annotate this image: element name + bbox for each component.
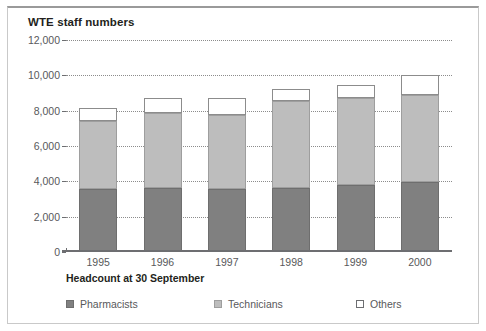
bar-segment-technicians-1997[interactable]	[208, 115, 246, 189]
y-axis-tick-mark	[62, 75, 66, 76]
y-axis-tick-label: 10,000	[0, 70, 60, 80]
y-axis-tick-mark	[62, 40, 66, 41]
x-axis-title: Headcount at 30 September	[66, 272, 204, 284]
legend-item-technicians[interactable]: Technicians	[214, 298, 283, 310]
chart-title: WTE staff numbers	[28, 16, 135, 28]
y-axis-tick-label: 2,000	[0, 212, 60, 222]
bar-segment-technicians-1998[interactable]	[272, 101, 310, 188]
bar-segment-others-2000[interactable]	[401, 75, 439, 94]
bar-segment-technicians-1995[interactable]	[79, 121, 117, 189]
gridline	[66, 40, 452, 41]
bar-segment-pharmacists-1995[interactable]	[79, 189, 117, 252]
swatch-pharmacists-icon	[66, 300, 74, 308]
bar-segment-others-1999[interactable]	[337, 85, 375, 98]
swatch-technicians-icon	[214, 300, 222, 308]
bar-segment-pharmacists-1997[interactable]	[208, 189, 246, 252]
y-axis-tick-label: 0	[0, 247, 60, 257]
y-axis-tick-mark	[62, 217, 66, 218]
y-axis-tick-label: 6,000	[0, 141, 60, 151]
y-axis-tick-mark	[62, 146, 66, 147]
y-axis-tick-label: 12,000	[0, 35, 60, 45]
gridline	[66, 111, 452, 112]
bar-1997[interactable]	[208, 98, 246, 252]
x-axis-tick-label-1999: 1999	[323, 256, 387, 268]
bar-segment-pharmacists-1999[interactable]	[337, 185, 375, 252]
legend-item-others[interactable]: Others	[356, 298, 402, 310]
x-axis-tick-label-1997: 1997	[195, 256, 259, 268]
bar-segment-pharmacists-1996[interactable]	[144, 188, 182, 252]
gridline	[66, 217, 452, 218]
bar-segment-technicians-1996[interactable]	[144, 113, 182, 188]
bar-segment-others-1998[interactable]	[272, 89, 310, 100]
bar-segment-others-1996[interactable]	[144, 98, 182, 113]
swatch-others-icon	[356, 300, 364, 308]
x-axis-tick-label-1996: 1996	[130, 256, 194, 268]
bar-1996[interactable]	[144, 98, 182, 252]
legend-label: Pharmacists	[80, 298, 138, 310]
y-axis-tick-label: 4,000	[0, 176, 60, 186]
y-axis-tick-mark	[62, 111, 66, 112]
x-axis-tick-labels: 199519961997199819992000	[66, 256, 452, 272]
x-axis-tick-label-1995: 1995	[66, 256, 130, 268]
y-axis-labels: 02,0004,0006,0008,00010,00012,000	[0, 40, 60, 252]
bar-segment-others-1995[interactable]	[79, 108, 117, 121]
bar-segment-pharmacists-1998[interactable]	[272, 188, 310, 252]
x-axis-tick-label-1998: 1998	[259, 256, 323, 268]
legend-label: Others	[370, 298, 402, 310]
bar-segment-pharmacists-2000[interactable]	[401, 182, 439, 252]
chart-legend: PharmacistsTechniciansOthers	[66, 298, 456, 312]
gridline	[66, 146, 452, 147]
gridline	[66, 75, 452, 76]
y-axis-tick-mark	[62, 252, 66, 253]
bar-1998[interactable]	[272, 89, 310, 252]
legend-label: Technicians	[228, 298, 283, 310]
chart-figure: WTE staff numbers 02,0004,0006,0008,0001…	[0, 0, 486, 331]
bar-segment-technicians-1999[interactable]	[337, 98, 375, 185]
bar-segment-technicians-2000[interactable]	[401, 95, 439, 182]
bar-segment-others-1997[interactable]	[208, 98, 246, 115]
legend-item-pharmacists[interactable]: Pharmacists	[66, 298, 138, 310]
bar-1995[interactable]	[79, 108, 117, 252]
bar-2000[interactable]	[401, 75, 439, 252]
y-axis-tick-label: 8,000	[0, 106, 60, 116]
x-axis-line	[62, 250, 452, 252]
bar-1999[interactable]	[337, 85, 375, 252]
x-axis-tick-label-2000: 2000	[388, 256, 452, 268]
plot-area	[66, 40, 452, 252]
gridline	[66, 181, 452, 182]
y-axis-tick-mark	[62, 181, 66, 182]
